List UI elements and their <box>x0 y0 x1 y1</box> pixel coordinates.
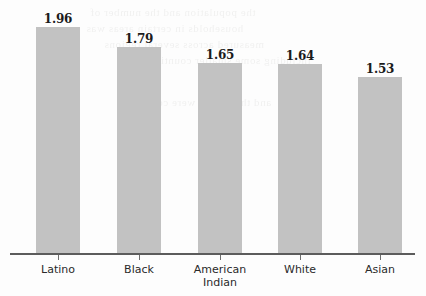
x-axis-label-line: White <box>260 263 340 276</box>
bar-american-indian <box>198 63 242 253</box>
plot-area: 1.96 1.79 1.65 1.64 1.53 Latino Black Am… <box>0 0 426 296</box>
x-axis-label-american-indian: American Indian <box>180 263 260 289</box>
bar-asian <box>358 77 402 253</box>
x-axis-label-black: Black <box>99 263 179 276</box>
x-axis-tick-0 <box>58 255 59 260</box>
x-axis-tick-2 <box>220 255 221 260</box>
x-axis-label-asian: Asian <box>340 263 420 276</box>
bar-value-label-4: 1.53 <box>358 62 402 76</box>
bar-black <box>117 47 161 253</box>
bar-value-label-2: 1.65 <box>198 48 242 62</box>
x-axis-tick-4 <box>380 255 381 260</box>
bar-latino <box>36 27 80 253</box>
bar-white <box>278 64 322 253</box>
x-axis-label-line: Asian <box>340 263 420 276</box>
x-axis-line <box>10 253 415 255</box>
bar-value-label-1: 1.79 <box>117 32 161 46</box>
bar-chart: the population and the number of househo… <box>0 0 426 296</box>
x-axis-label-line: Indian <box>180 276 260 289</box>
bar-value-label-3: 1.64 <box>278 49 322 63</box>
x-axis-tick-1 <box>139 255 140 260</box>
x-axis-label-line: Latino <box>18 263 98 276</box>
x-axis-label-latino: Latino <box>18 263 98 276</box>
x-axis-tick-3 <box>300 255 301 260</box>
x-axis-label-line: Black <box>99 263 179 276</box>
x-axis-label-line: American <box>180 263 260 276</box>
x-axis-label-white: White <box>260 263 340 276</box>
bar-value-label-0: 1.96 <box>36 12 80 26</box>
